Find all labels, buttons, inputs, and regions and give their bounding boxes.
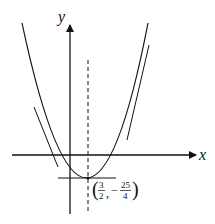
vertex-point [87,177,90,180]
x-axis-label: x [198,146,206,163]
svg-text:2: 2 [99,191,104,201]
svg-text:3: 3 [99,180,104,190]
parabola-diagram: y x ( 3 2 , − 25 4 ) [0,0,215,224]
svg-text:(: ( [92,178,99,201]
right-tangent-line [127,45,149,140]
svg-text:): ) [132,178,139,201]
svg-text:,: , [106,186,109,200]
svg-text:25: 25 [121,180,131,190]
svg-text:4: 4 [123,191,128,201]
y-axis-label: y [56,8,66,26]
vertex-label: ( 3 2 , − 25 4 ) [92,178,139,201]
svg-text:−: − [111,183,118,197]
